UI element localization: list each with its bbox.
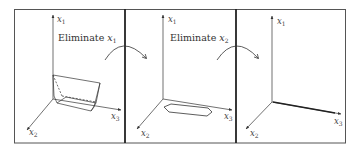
elimination-diagram: x1 x3 x2 Eliminate x1 x1 x3 x2 xyxy=(0,0,356,153)
x1-axis-label: x1 xyxy=(168,14,177,25)
x2-axis-label: x2 xyxy=(29,127,38,138)
x3-axis-label: x3 xyxy=(334,116,343,127)
panel-1: x1 x3 x2 Eliminate x1 xyxy=(27,14,146,138)
curved-arrow-2 xyxy=(217,46,258,60)
panel-3: x1 x3 x2 xyxy=(246,16,343,139)
x2-axis-label: x2 xyxy=(250,128,259,139)
x3-axis-label: x3 xyxy=(224,111,233,122)
x3-axis-label: x3 xyxy=(111,111,120,122)
x2-axis xyxy=(27,99,53,130)
x2-axis xyxy=(137,99,163,129)
figure-frame xyxy=(15,10,346,144)
caption-eliminate-x1: Eliminate x1 xyxy=(58,32,117,44)
x1-axis-label: x1 xyxy=(57,14,66,25)
caption-eliminate-x2: Eliminate x2 xyxy=(170,32,229,44)
x2-axis-label: x2 xyxy=(141,128,150,139)
x2-axis xyxy=(246,102,272,129)
panel-2: x1 x3 x2 Eliminate x2 xyxy=(137,14,258,139)
x1-axis-label: x1 xyxy=(277,16,286,27)
interval-1d xyxy=(273,102,335,113)
